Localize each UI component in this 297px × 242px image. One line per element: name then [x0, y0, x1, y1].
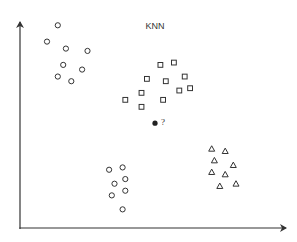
class-circle-top-point: [61, 62, 66, 67]
class-square-point: [158, 63, 163, 68]
class-triangle-point: [217, 183, 223, 188]
class-triangle-point: [233, 181, 239, 186]
class-circle-bottom-point: [109, 193, 114, 198]
query-point: [152, 121, 157, 126]
class-circle-bottom-point: [120, 207, 125, 212]
class-square-point: [139, 104, 144, 109]
class-square-point: [177, 88, 182, 93]
class-square-point: [163, 79, 168, 84]
class-circle-top-point: [63, 46, 68, 51]
class-circle-bottom-point: [107, 167, 112, 172]
class-square-point: [145, 76, 150, 81]
class-circle-bottom-point: [123, 176, 128, 181]
diagram-title: KNN: [145, 21, 164, 31]
class-square-point: [139, 90, 144, 95]
class-square-point: [172, 60, 177, 65]
class-circle-top-point: [55, 23, 60, 28]
class-circle-top-point: [85, 48, 90, 53]
class-square-point: [182, 74, 187, 79]
class-triangle-point: [230, 162, 236, 167]
knn-diagram: KNN ?: [0, 0, 297, 242]
query-label: ?: [161, 117, 165, 127]
class-circle-top-point: [80, 67, 85, 72]
class-square-point: [161, 97, 166, 102]
class-triangle-point: [209, 146, 215, 151]
class-circle-top-point: [44, 39, 49, 44]
class-triangle-point: [211, 157, 217, 162]
class-triangle-point: [209, 169, 215, 174]
class-circle-top-point: [69, 79, 74, 84]
class-circle-bottom-point: [123, 188, 128, 193]
data-points: [44, 23, 239, 212]
class-circle-bottom-point: [112, 181, 117, 186]
class-square-point: [188, 86, 193, 91]
class-square-point: [123, 97, 128, 102]
class-circle-top-point: [55, 74, 60, 79]
class-triangle-point: [222, 148, 228, 153]
class-triangle-point: [222, 171, 228, 176]
class-circle-bottom-point: [120, 165, 125, 170]
